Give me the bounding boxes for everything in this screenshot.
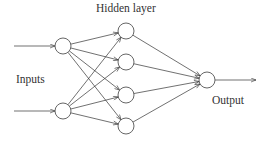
node-h2: [118, 54, 134, 70]
edge-i2-h1: [68, 37, 121, 104]
edge-h1-o1: [133, 35, 200, 76]
edge-h2-o1: [134, 64, 199, 79]
edge-h3-o1: [134, 81, 199, 93]
node-i1: [55, 38, 71, 54]
node-h3: [118, 87, 134, 103]
node-i2: [55, 103, 71, 119]
edge-i2-h2: [69, 67, 119, 106]
edge-h4-o1: [133, 84, 200, 122]
node-h4: [118, 118, 134, 134]
inputs-label: Inputs: [16, 73, 45, 86]
neural-network-diagram: Hidden layer Inputs Output: [0, 0, 268, 143]
node-o1: [199, 72, 215, 88]
edge-i1-h1: [71, 33, 118, 44]
hidden-layer-label: Hidden layer: [96, 2, 156, 15]
node-h1: [118, 23, 134, 39]
output-label: Output: [212, 94, 245, 107]
edge-i2-h4: [71, 113, 118, 124]
edge-i1-h4: [68, 52, 121, 119]
